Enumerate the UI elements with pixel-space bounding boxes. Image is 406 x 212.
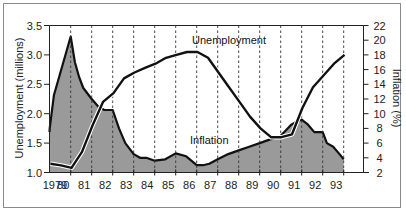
left-tick-label: 2.0	[27, 108, 42, 120]
x-tick-label: 88	[225, 179, 237, 191]
right-tick-label: 22	[373, 20, 385, 32]
left-tick-label: 3.5	[27, 20, 42, 32]
right-tick-label: 14	[373, 78, 385, 90]
right-tick-label: 20	[373, 34, 385, 46]
left-tick-label: 1.0	[27, 167, 42, 179]
chart: 1.01.52.02.53.03.5 246810121416182022 19…	[0, 0, 406, 212]
right-tick-label: 6	[376, 137, 382, 149]
inflation-label: Inflation	[190, 134, 229, 146]
left-tick-label: 1.5	[27, 137, 42, 149]
left-axis-title: Unemployment (millions)	[13, 37, 25, 158]
x-tick-label: 87	[204, 179, 216, 191]
left-tick-label: 2.5	[27, 78, 42, 90]
x-tick-label: 86	[183, 179, 195, 191]
right-tick-label: 18	[373, 49, 385, 61]
x-tick-label: 85	[162, 179, 174, 191]
x-tick-label: 90	[267, 179, 279, 191]
right-tick-label: 4	[376, 152, 382, 164]
right-axis-title: Inflation (%)	[391, 69, 403, 128]
left-tick-label: 3.0	[27, 49, 42, 61]
x-tick-label: 92	[309, 179, 321, 191]
x-tick-label: 84	[141, 179, 153, 191]
left-axis-ticks: 1.01.52.02.53.03.5	[27, 20, 50, 179]
right-tick-label: 8	[376, 122, 382, 134]
right-axis-ticks: 246810121416182022	[364, 20, 386, 179]
x-tick-label: 80	[57, 179, 69, 191]
x-tick-label: 83	[120, 179, 132, 191]
x-tick-label: 91	[288, 179, 300, 191]
right-tick-label: 12	[373, 93, 385, 105]
right-tick-label: 2	[376, 167, 382, 179]
unemployment-label: Unemployment	[192, 34, 266, 46]
right-tick-label: 10	[373, 108, 385, 120]
x-tick-label: 93	[330, 179, 342, 191]
x-tick-label: 89	[246, 179, 258, 191]
x-tick-label: 81	[78, 179, 90, 191]
right-tick-label: 16	[373, 64, 385, 76]
x-tick-label: 82	[99, 179, 111, 191]
